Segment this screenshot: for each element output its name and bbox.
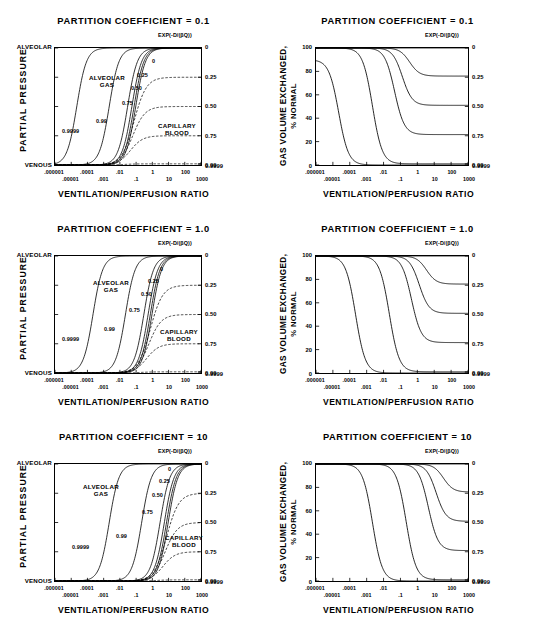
right-axis-label: 0 — [472, 44, 475, 50]
x-tick-label: .000001 — [305, 169, 325, 175]
x-tick-label: .001 — [98, 384, 109, 390]
exp-axis-header: EXP(-D/(βQ)) — [425, 32, 459, 38]
y-tick-label: 60 — [295, 92, 312, 98]
y-axis-title-line2: % NORMAL — [289, 254, 299, 374]
curve-7 — [55, 523, 201, 581]
x-tick-label: .0001 — [80, 169, 94, 175]
curve-1 — [55, 256, 201, 373]
alveolar-gas-label: ALVEOLARGAS — [88, 279, 134, 294]
panel-right-row2: PARTITION COEFFICIENT = 10EXP(-D/(βQ))GA… — [267, 416, 534, 624]
curve-0 — [55, 256, 201, 373]
panel-title: PARTITION COEFFICIENT = 0.1 — [267, 16, 534, 26]
curve-3 — [55, 464, 201, 581]
capillary-blood-label: CAPILLARYBLOOD — [162, 534, 206, 549]
exp-axis-header: EXP(-D/(βQ)) — [158, 448, 192, 454]
capillary-blood-line1: CAPILLARY — [162, 534, 206, 541]
x-axis-title: VENTILATION/PERFUSION RATIO — [267, 189, 534, 199]
y-tick-label: 100 — [295, 252, 312, 258]
y-axis-title-line2: % NORMAL — [289, 462, 299, 582]
capillary-blood-label: CAPILLARYBLOOD — [155, 122, 199, 137]
x-tick-label: .001 — [361, 176, 372, 182]
curve-annotation: 0.75 — [129, 307, 140, 313]
x-tick-label: .0001 — [80, 377, 94, 383]
right-axis-label: 0.75 — [472, 133, 483, 139]
curve-annotation: 0.75 — [122, 100, 133, 106]
x-tick-label: 100 — [181, 585, 190, 591]
x-tick-label: 1000 — [196, 592, 208, 598]
x-tick-label: 1000 — [196, 176, 208, 182]
x-tick-label: .00001 — [62, 176, 79, 182]
y-axis-title: GAS VOLUME EXCHANGED,% NORMAL — [279, 462, 299, 582]
x-tick-label: .001 — [98, 176, 109, 182]
x-tick-label: .001 — [361, 592, 372, 598]
x-tick-label: 100 — [447, 585, 456, 591]
y-tick-label: 20 — [295, 139, 312, 145]
exp-axis-header: EXP(-D/(βQ)) — [425, 448, 459, 454]
x-tick-label: .01 — [116, 585, 124, 591]
panel-title: PARTITION COEFFICIENT = 10 — [267, 432, 534, 442]
y-tick-label: 100 — [295, 44, 312, 50]
plot-curves — [316, 48, 468, 165]
curve-4 — [55, 464, 201, 581]
x-tick-label: .0001 — [80, 585, 94, 591]
x-tick-label: .0001 — [342, 377, 356, 383]
x-tick-label: 1000 — [196, 384, 208, 390]
x-tick-label: .001 — [98, 592, 109, 598]
y-tick-label: 20 — [295, 347, 312, 353]
curve-annotation: 0.99 — [116, 533, 127, 539]
x-tick-label: .1 — [134, 384, 139, 390]
alveolar-gas-line1: ALVEOLAR — [84, 74, 130, 81]
right-axis-label: 0 — [205, 44, 208, 50]
capillary-blood-line1: CAPILLARY — [157, 328, 201, 335]
curve-annotation: 0 — [160, 266, 163, 272]
x-tick-label: 1 — [416, 585, 419, 591]
curve-annotation: 0 — [152, 58, 155, 64]
x-tick-label: .000001 — [305, 585, 325, 591]
curve-annotation: 0.99 — [104, 326, 115, 332]
capillary-blood-line1: CAPILLARY — [155, 122, 199, 129]
curve-annotation: 0.25 — [159, 478, 170, 484]
y-axis-title: PARTIAL PRESSURE — [18, 248, 28, 368]
curve-2 — [316, 256, 468, 313]
x-tick-label: 1 — [416, 377, 419, 383]
right-axis-label: 0.50 — [472, 311, 483, 317]
x-tick-label: .000001 — [44, 377, 64, 383]
x-axis-title: VENTILATION/PERFUSION RATIO — [267, 397, 534, 407]
curve-2 — [55, 256, 201, 373]
curve-4 — [316, 256, 468, 372]
plot-area — [54, 47, 202, 166]
right-axis-label: 0.75 — [205, 133, 216, 139]
y-axis-title-line1: GAS VOLUME EXCHANGED, — [279, 46, 289, 166]
x-tick-label: .01 — [116, 377, 124, 383]
right-axis-label: 0.9999 — [205, 163, 223, 169]
curve-1 — [316, 464, 468, 492]
right-axis-label: 0.75 — [205, 341, 216, 347]
x-tick-label: .01 — [380, 169, 388, 175]
x-tick-label: .00001 — [324, 176, 341, 182]
x-tick-label: .1 — [134, 176, 139, 182]
capillary-blood-line2: BLOOD — [155, 129, 199, 136]
panel-title: PARTITION COEFFICIENT = 1.0 — [0, 224, 267, 234]
curve-annotation: 0.50 — [152, 492, 163, 498]
x-tick-label: 10 — [166, 592, 172, 598]
x-tick-label: .01 — [116, 169, 124, 175]
x-axis-title: VENTILATION/PERFUSION RATIO — [0, 397, 267, 407]
x-tick-label: 10 — [166, 176, 172, 182]
x-tick-label: 100 — [447, 377, 456, 383]
y-axis-top-tag: ALVEOLAR — [2, 43, 52, 50]
y-axis-title: GAS VOLUME EXCHANGED,% NORMAL — [279, 254, 299, 374]
x-tick-label: .1 — [134, 592, 139, 598]
curve-5 — [55, 464, 201, 581]
x-tick-label: .001 — [361, 384, 372, 390]
curve-4 — [316, 48, 468, 164]
exp-axis-header: EXP(-D/(βQ)) — [425, 240, 459, 246]
curve-8 — [55, 552, 201, 581]
x-tick-label: .0001 — [342, 169, 356, 175]
y-axis-top-tag: ALVEOLAR — [2, 459, 52, 466]
exp-axis-header: EXP(-D/(βQ)) — [158, 32, 192, 38]
curve-4 — [316, 464, 468, 580]
panel-left-row0: PARTITION COEFFICIENT = 0.1EXP(-D/(βQ))P… — [0, 0, 267, 208]
x-tick-label: .01 — [380, 585, 388, 591]
x-tick-label: 1000 — [463, 384, 475, 390]
y-tick-label: 80 — [295, 276, 312, 282]
